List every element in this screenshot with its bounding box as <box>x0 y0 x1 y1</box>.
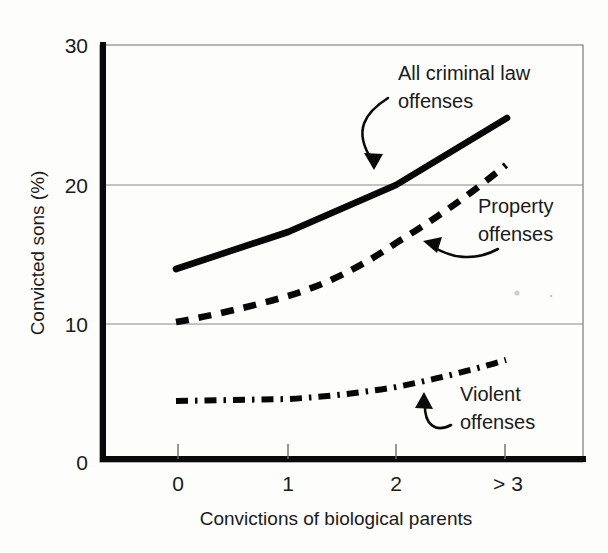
annotation-all-criminal-line1: All criminal law <box>398 62 531 84</box>
paper-speck <box>550 295 553 298</box>
annotation-violent-line1: Violent <box>460 383 521 405</box>
paper-speck <box>514 290 519 295</box>
x-axis-title: Convictions of biological parents <box>200 508 473 529</box>
chart-page: 30 20 10 0 0 1 2 > 3 Convictions of biol… <box>0 0 608 553</box>
annotation-property-line2: offenses <box>478 223 553 245</box>
ytick-label-0: 0 <box>76 451 88 474</box>
line-chart: 30 20 10 0 0 1 2 > 3 Convictions of biol… <box>0 0 608 553</box>
annotation-violent-line2: offenses <box>460 411 535 433</box>
xtick-label-2: 2 <box>390 472 402 495</box>
xtick-label-1: 1 <box>282 472 294 495</box>
annotation-property-line1: Property <box>478 195 554 217</box>
y-axis-title: Convicted sons (%) <box>27 171 48 336</box>
ytick-label-20: 20 <box>65 174 88 197</box>
xtick-label-3: > 3 <box>493 472 523 495</box>
xtick-label-0: 0 <box>172 472 184 495</box>
annotation-all-criminal-line2: offenses <box>398 90 473 112</box>
ytick-label-30: 30 <box>65 34 88 57</box>
ytick-label-10: 10 <box>65 313 88 336</box>
